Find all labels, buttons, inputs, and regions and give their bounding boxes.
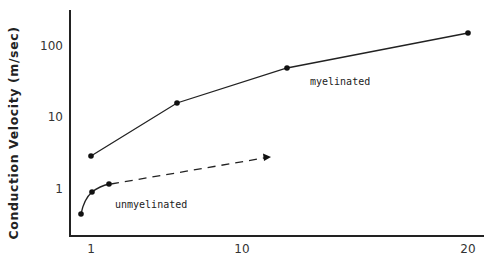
series-myelinated xyxy=(88,30,471,159)
data-point xyxy=(88,153,94,159)
x-tick-1: 1 xyxy=(87,242,95,256)
myelinated-label: myelinated xyxy=(310,76,370,87)
x-tick-10: 10 xyxy=(234,242,249,256)
conduction-velocity-chart: Conduction Velocity (m/sec) 100 10 1 1 1… xyxy=(0,0,495,268)
y-tick-100: 100 xyxy=(40,39,63,53)
data-point xyxy=(78,211,84,217)
arrowhead-icon xyxy=(263,154,271,162)
y-tick-10: 10 xyxy=(48,110,63,124)
myelinated-line xyxy=(91,33,468,156)
data-point xyxy=(174,100,180,106)
unmyelinated-extrapolation-dashed-line xyxy=(111,158,264,184)
data-point xyxy=(89,189,95,195)
x-tick-20: 20 xyxy=(460,242,475,256)
unmyelinated-curve xyxy=(81,184,109,214)
unmyelinated-label: unmyelinated xyxy=(115,199,187,210)
data-point xyxy=(284,65,290,71)
y-axis-title: Conduction Velocity (m/sec) xyxy=(6,26,21,239)
data-point xyxy=(465,30,471,36)
data-point xyxy=(106,181,112,187)
y-tick-1: 1 xyxy=(55,182,63,196)
